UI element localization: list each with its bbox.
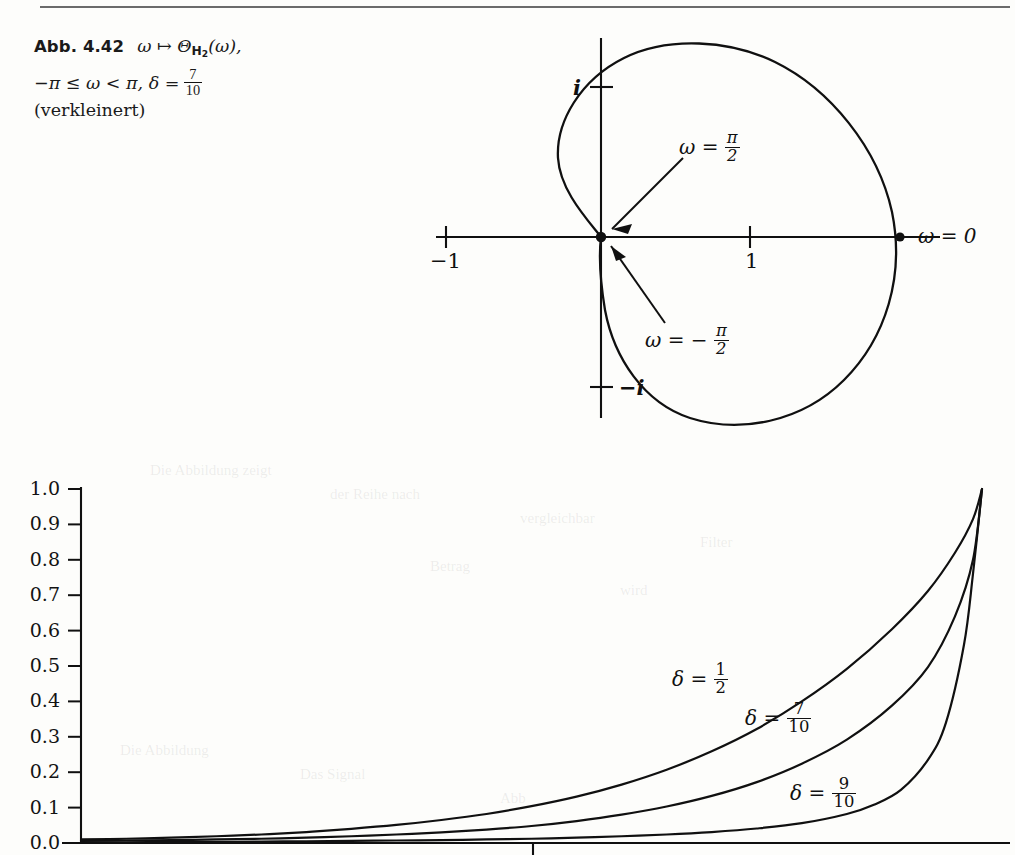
chart-y-tick-label: 0.5 [0,654,60,676]
caption-theta-subscript: H [192,44,202,58]
caption-argument: (ω), [208,36,242,56]
caption-omega-range: −π ≤ ω < π, δ = [34,73,179,93]
series-label-delta-one-half-den: 2 [714,680,728,697]
chart-y-tick-label: 0.4 [0,689,60,711]
series-label-delta-nine-tenths-den: 10 [832,794,857,811]
series-label-delta-one-half-fraction: 1 2 [714,662,728,696]
tick-label-i: i [573,75,581,100]
series-label-delta-nine-tenths: δ = 9 10 [790,776,856,810]
figure-page: Die Abbildung zeigtder Reihe nachverglei… [0,0,1015,855]
series-label-delta-seven-tenths: δ = 7 10 [745,701,811,735]
caption-note: (verkleinert) [34,100,145,120]
tick-label-one: 1 [745,249,758,273]
tick-label-minus-i: −i [619,375,645,400]
chart-y-tick-label: 0.1 [0,796,60,818]
omega-plus-half-pi-text: ω = [679,135,718,159]
omega-plus-half-pi-arrow [612,158,683,234]
series-label-delta-seven-tenths-prefix: δ = [745,706,780,730]
half-pi-denominator-bottom: 2 [714,341,729,358]
chart-y-tick-label: 0.3 [0,725,60,747]
half-pi-denominator-top: 2 [725,148,740,165]
omega-minus-half-pi-arrow [611,246,665,323]
series-label-delta-nine-tenths-fraction: 9 10 [832,776,857,810]
chart-y-tick-label: 0.9 [0,512,60,534]
nyquist-polar-figure: −1 1 i −i ω = 0 ω = π 2 ω = − π 2 [400,18,1015,448]
chart-y-tick-label: 0.2 [0,760,60,782]
caption-delta-fraction: 7 10 [184,67,202,97]
series-label-delta-seven-tenths-den: 10 [787,719,812,736]
series-label-delta-nine-tenths-prefix: δ = [790,781,825,805]
omega-zero-point [895,232,904,241]
chart-y-tick-label: 0.6 [0,619,60,641]
caption-map-expression: ω ↦ Θ [137,36,191,56]
omega-minus-half-pi-text: ω = − [645,328,708,352]
caption-delta-denominator: 10 [184,83,202,98]
series-label-delta-one-half: δ = 1 2 [672,662,728,696]
delta-comparison-chart: 1.00.90.80.70.60.50.40.30.20.10.0 δ = 1 … [0,462,1015,855]
chart-y-tick-label: 0.8 [0,548,60,570]
chart-y-tick-label: 1.0 [0,477,60,499]
omega-zero-label: ω = 0 [918,224,977,248]
chart-y-tick-label: 0.0 [0,831,60,853]
figure-caption: Abb. 4.42 ω ↦ ΘH2(ω), −π ≤ ω < π, δ = 7 … [34,33,334,123]
chart-y-tick-group [68,489,81,843]
caption-delta-numerator: 7 [184,67,202,83]
half-pi-fraction-top: π 2 [725,130,740,164]
chart-y-tick-label: 0.7 [0,583,60,605]
top-divider-rule [40,6,1010,8]
series-label-delta-one-half-prefix: δ = [672,667,707,691]
omega-minus-half-pi-label: ω = − π 2 [645,323,729,357]
omega-plus-half-pi-label: ω = π 2 [679,130,740,164]
half-pi-fraction-bottom: π 2 [714,323,729,357]
figure-number: Abb. 4.42 [34,37,124,56]
nyquist-curve [558,43,896,424]
origin-point [596,232,606,242]
tick-label-minus-one: −1 [430,249,461,273]
series-label-delta-seven-tenths-fraction: 7 10 [787,701,812,735]
